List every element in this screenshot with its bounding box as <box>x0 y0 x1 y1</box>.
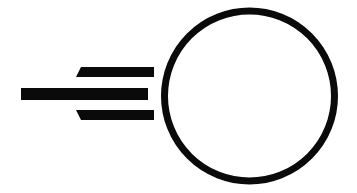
moving-ball-icon <box>0 0 357 193</box>
speed-line-top <box>76 67 154 77</box>
speed-line-middle <box>21 88 148 100</box>
speed-line-bottom <box>76 110 154 120</box>
